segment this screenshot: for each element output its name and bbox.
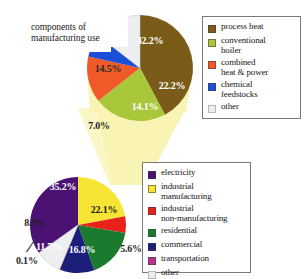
- legend-item-transportation[interactable]: transportation: [148, 254, 246, 265]
- swatch-other-bottom-icon: [148, 271, 156, 279]
- swatch-industrial-non-manufacturing-icon: [148, 207, 156, 215]
- bottom-label-industrial-manufacturing: 22.1%: [91, 204, 118, 215]
- legend-item-conventional-boiler[interactable]: conventional boiler: [208, 36, 296, 55]
- legend-label-electricity: electricity: [161, 168, 195, 178]
- annotation-notch-lower: [23, 47, 111, 52]
- annotation-components-of-manufacturing-use: components of manufacturing use: [31, 22, 127, 44]
- top-label-conventional-boiler: 22.2%: [159, 80, 186, 91]
- legend-item-electricity[interactable]: electricity: [148, 168, 246, 179]
- legend-label-other-bottom: other: [161, 268, 179, 278]
- bottom-label-industrial-non-manufacturing: 5.6%: [120, 243, 142, 254]
- legend-item-residential[interactable]: residential: [148, 226, 246, 237]
- bottom-label-electricity: 35.2%: [50, 181, 77, 192]
- legend-item-process-heat[interactable]: process heat: [208, 22, 296, 33]
- swatch-electricity-icon: [148, 171, 156, 179]
- legend-item-combined-heat-power[interactable]: combined heat & power: [208, 58, 296, 77]
- bottom-label-commercial: 11.7%: [36, 241, 62, 252]
- swatch-combined-heat-power-icon: [208, 61, 216, 69]
- legend-label-conventional-boiler: conventional boiler: [221, 36, 266, 55]
- bottom-label-other: 8.9%: [24, 217, 46, 228]
- top-label-process-heat: 42.2%: [137, 35, 164, 46]
- legend-bottom: electricity industrial manufacturing ind…: [142, 162, 251, 273]
- swatch-commercial-icon: [148, 243, 156, 251]
- swatch-transportation-icon: [148, 257, 156, 265]
- legend-item-chemical-feedstocks[interactable]: chemical feedstocks: [208, 80, 296, 99]
- legend-label-residential: residential: [161, 226, 197, 236]
- legend-top-list: process heat conventional boiler combine…: [203, 17, 300, 113]
- figure-root: 42.2%22.2%14.1%14.5%7.0%35.2%22.1%5.6%16…: [0, 0, 305, 279]
- legend-item-other-top[interactable]: other: [208, 102, 296, 113]
- legend-label-commercial: commercial: [161, 240, 202, 250]
- legend-top: process heat conventional boiler combine…: [202, 16, 301, 119]
- legend-item-commercial[interactable]: commercial: [148, 240, 246, 251]
- top-label-combined-heat-power: 14.1%: [132, 101, 159, 112]
- legend-item-industrial-non-manufacturing[interactable]: industrial non-manufacturing: [148, 204, 246, 223]
- legend-label-chemical-feedstocks: chemical feedstocks: [221, 80, 258, 99]
- legend-label-process-heat: process heat: [221, 22, 263, 32]
- legend-label-transportation: transportation: [161, 254, 209, 264]
- legend-label-combined-heat-power: combined heat & power: [221, 58, 268, 77]
- swatch-other-top-icon: [208, 105, 216, 113]
- bottom-label-residential: 16.8%: [69, 244, 96, 255]
- top-label-other: 14.5%: [95, 63, 122, 74]
- swatch-chemical-feedstocks-icon: [208, 83, 216, 91]
- legend-item-other-bottom[interactable]: other: [148, 268, 246, 279]
- bottom-label-transportation: 0.1%: [16, 255, 38, 266]
- top-label-chemical-feedstocks: 7.0%: [88, 120, 110, 131]
- legend-item-industrial-manufacturing[interactable]: industrial manufacturing: [148, 182, 246, 201]
- legend-bottom-list: electricity industrial manufacturing ind…: [143, 163, 250, 279]
- legend-label-industrial-non-manufacturing: industrial non-manufacturing: [161, 204, 227, 223]
- swatch-industrial-manufacturing-icon: [148, 185, 156, 193]
- swatch-process-heat-icon: [208, 25, 216, 33]
- legend-label-industrial-manufacturing: industrial manufacturing: [161, 182, 212, 201]
- swatch-conventional-boiler-icon: [208, 39, 216, 47]
- legend-label-other-top: other: [221, 102, 239, 112]
- swatch-residential-icon: [148, 229, 156, 237]
